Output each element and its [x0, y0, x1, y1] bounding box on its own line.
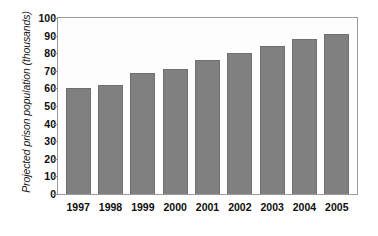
y-tick-label: 20	[16, 154, 56, 164]
bar-2001	[195, 60, 220, 194]
bar-2002	[227, 53, 252, 194]
x-tick-label: 2003	[256, 200, 288, 214]
bar-slot	[62, 18, 94, 194]
bar-2003	[260, 46, 285, 194]
bar-slot	[159, 18, 191, 194]
y-tick-label: 60	[16, 83, 56, 93]
bar-2005	[324, 34, 349, 194]
y-tick-label: 0	[16, 189, 56, 199]
bar-1999	[130, 73, 155, 194]
bar-chart-figure: Projected prison population (thousands) …	[0, 0, 378, 236]
x-tick-label: 2001	[191, 200, 223, 214]
bar-series	[58, 18, 357, 194]
y-tick-label: 80	[16, 48, 56, 58]
x-tick-label: 1999	[127, 200, 159, 214]
bar-1998	[98, 85, 123, 194]
bar-slot	[224, 18, 256, 194]
bar-2000	[163, 69, 188, 194]
bar-slot	[321, 18, 353, 194]
bar-slot	[256, 18, 288, 194]
y-tick-label: 70	[16, 66, 56, 76]
bar-slot	[191, 18, 223, 194]
bar-slot	[288, 18, 320, 194]
x-tick-label: 2005	[321, 200, 353, 214]
y-tick-label: 10	[16, 171, 56, 181]
x-tick-label: 1998	[94, 200, 126, 214]
x-tick-label: 2002	[224, 200, 256, 214]
bar-2004	[292, 39, 317, 194]
x-tick-label: 1997	[62, 200, 94, 214]
x-tick-label: 2000	[159, 200, 191, 214]
bar-slot	[94, 18, 126, 194]
y-tick-label: 40	[16, 119, 56, 129]
y-tick-label: 30	[16, 136, 56, 146]
x-axis-tick-labels: 1997 1998 1999 2000 2001 2002 2003 2004 …	[58, 200, 357, 214]
y-tick-label: 50	[16, 101, 56, 111]
y-tick-label: 90	[16, 31, 56, 41]
y-tick-label: 100	[16, 13, 56, 23]
x-tick-label: 2004	[288, 200, 320, 214]
bar-slot	[127, 18, 159, 194]
bar-1997	[66, 88, 91, 194]
